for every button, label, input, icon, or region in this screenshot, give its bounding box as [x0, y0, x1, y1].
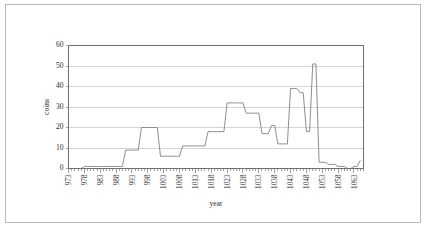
x-tick-label: 1028 — [240, 174, 248, 189]
y-tick-label: 0 — [60, 163, 64, 172]
x-tick-label: 1013 — [192, 174, 200, 189]
x-tick-label: 1023 — [224, 174, 232, 189]
x-tick-label: 978 — [81, 174, 89, 185]
x-tick-label: 973 — [65, 174, 73, 185]
x-tick-label: 1048 — [303, 174, 311, 189]
series-group — [69, 64, 361, 169]
chart-page: 0102030405060 97397898398899399810031008… — [0, 0, 426, 228]
y-tick-label: 60 — [56, 40, 64, 49]
x-tick-label: 1033 — [255, 174, 263, 189]
y-axis-title: coins — [42, 99, 51, 115]
y-tick-label: 40 — [56, 81, 64, 90]
x-tick-label: 1043 — [287, 174, 295, 189]
y-tick-label: 20 — [56, 122, 64, 131]
x-tick-label: 1018 — [208, 174, 216, 189]
x-tick-marks-group — [69, 169, 364, 173]
x-tick-label: 1053 — [319, 174, 327, 189]
x-tick-label: 1063 — [351, 174, 359, 189]
x-tick-label: 1008 — [176, 174, 184, 189]
x-tick-label: 993 — [129, 174, 137, 185]
gridlines-group — [69, 66, 364, 148]
chart-figure: 0102030405060 97397898398899399810031008… — [0, 0, 426, 228]
y-tick-label: 10 — [56, 143, 64, 152]
x-tick-label: 998 — [144, 174, 152, 185]
x-axis-title: year — [210, 199, 223, 208]
x-tick-label: 1003 — [160, 174, 168, 189]
y-tick-label: 30 — [56, 102, 64, 111]
x-tick-label: 983 — [97, 174, 105, 185]
x-tick-labels-group: 9739789839889939981003100810131018102310… — [65, 174, 358, 189]
x-tick-label: 988 — [113, 174, 121, 185]
y-tick-labels-group: 0102030405060 — [56, 40, 69, 172]
y-tick-label: 50 — [56, 61, 64, 70]
line-chart-plot: 0102030405060 97397898398899399810031008… — [0, 0, 426, 228]
series-path — [69, 64, 361, 169]
x-tick-label: 1058 — [335, 174, 343, 189]
x-tick-label: 1038 — [271, 174, 279, 189]
